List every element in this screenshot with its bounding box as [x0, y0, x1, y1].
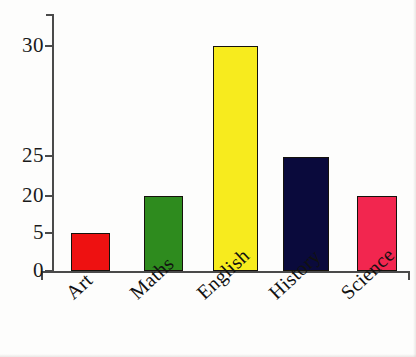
y-axis-tick-label: 5: [33, 222, 44, 243]
y-axis-tick-label: 20: [22, 185, 44, 206]
bar-english: [213, 46, 258, 271]
plot-area: 30252050 ArtMathsEnglishHistoryScience: [0, 0, 416, 357]
y-axis-tick-label: 0: [33, 260, 44, 281]
y-axis-tick-label: 25: [22, 145, 44, 166]
bar-chart: 30252050 ArtMathsEnglishHistoryScience: [0, 0, 416, 357]
y-axis-tick: [45, 45, 54, 47]
y-axis-line: [52, 14, 54, 273]
y-axis-tick: [45, 155, 54, 157]
y-axis-tick: [45, 195, 54, 197]
x-axis-end-cap: [408, 271, 410, 280]
y-axis-tick: [45, 232, 54, 234]
x-axis-label-art: Art: [62, 269, 96, 302]
bar-art: [71, 233, 110, 271]
y-axis-top-cap: [46, 14, 54, 16]
y-axis-tick: [45, 270, 54, 272]
y-axis-tick-label: 30: [22, 35, 44, 56]
